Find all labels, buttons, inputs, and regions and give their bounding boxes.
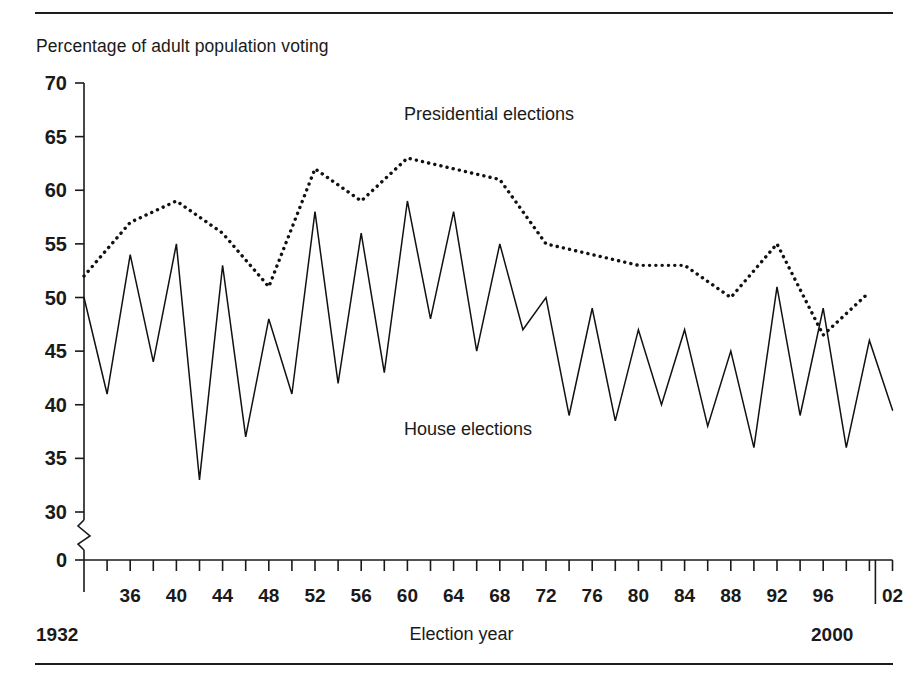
y-tick-label: 30 bbox=[21, 502, 67, 522]
x-tick-label: 80 bbox=[618, 586, 658, 605]
x-tick-label: 36 bbox=[110, 586, 150, 605]
x-tick-label: 44 bbox=[203, 586, 243, 605]
x-tick-label: 52 bbox=[295, 586, 335, 605]
y-tick-label: 45 bbox=[21, 341, 67, 361]
x-tick-label: 72 bbox=[526, 586, 566, 605]
axes bbox=[75, 83, 893, 604]
figure-container: Percentage of adult population voting 03… bbox=[0, 0, 923, 681]
x-tick-label: 92 bbox=[757, 586, 797, 605]
x-tick-label: 56 bbox=[341, 586, 381, 605]
x-tick-label: 02 bbox=[873, 586, 913, 605]
x-tick-label: 76 bbox=[572, 586, 612, 605]
y-tick-label: 0 bbox=[21, 550, 67, 570]
x-tick-label: 64 bbox=[434, 586, 474, 605]
series-label-presidential: Presidential elections bbox=[404, 105, 574, 123]
x-tick-label: 88 bbox=[711, 586, 751, 605]
y-tick-label: 35 bbox=[21, 448, 67, 468]
y-tick-label: 55 bbox=[21, 234, 67, 254]
x-tick-label: 96 bbox=[803, 586, 843, 605]
x-tick-label: 68 bbox=[480, 586, 520, 605]
chart-plot-area bbox=[0, 0, 923, 681]
y-tick-label: 70 bbox=[21, 73, 67, 93]
series-label-house: House elections bbox=[404, 420, 532, 438]
x-tick-label: 48 bbox=[249, 586, 289, 605]
x-tick-label: 60 bbox=[387, 586, 427, 605]
y-tick-label: 50 bbox=[21, 288, 67, 308]
y-tick-label: 65 bbox=[21, 127, 67, 147]
series-line-presidential bbox=[84, 158, 869, 335]
y-tick-label: 60 bbox=[21, 180, 67, 200]
x-tick-label: 40 bbox=[156, 586, 196, 605]
x-axis-title: Election year bbox=[0, 625, 923, 643]
y-tick-label: 40 bbox=[21, 395, 67, 415]
x-tick-label: 84 bbox=[665, 586, 705, 605]
